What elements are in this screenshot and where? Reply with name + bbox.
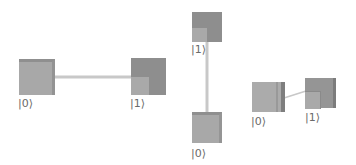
state-box-1 — [131, 58, 166, 95]
state-box-0-edge — [276, 82, 278, 112]
state-label-0: |0⟩ — [18, 98, 33, 109]
state-box-1-inner — [305, 91, 321, 109]
state-box-1-inner — [192, 28, 207, 42]
state-box-1 — [305, 78, 336, 108]
state-label-1: |1⟩ — [191, 44, 206, 55]
state-box-1 — [192, 12, 222, 42]
state-box-0 — [192, 112, 222, 143]
state-label-0: |0⟩ — [251, 116, 266, 127]
connector-perspective — [284, 91, 306, 98]
state-box-0 — [19, 59, 55, 95]
state-label-1: |1⟩ — [130, 98, 145, 109]
state-box-1-inner — [131, 77, 149, 95]
state-label-0: |0⟩ — [191, 148, 206, 159]
state-label-1: |1⟩ — [305, 112, 320, 123]
state-box-0 — [252, 82, 285, 112]
